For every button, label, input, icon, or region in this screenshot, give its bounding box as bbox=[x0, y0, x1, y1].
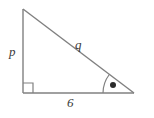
angle-arc-icon bbox=[103, 75, 109, 94]
right-triangle-figure: p q 6 bbox=[0, 0, 154, 118]
label-base-length: 6 bbox=[67, 96, 74, 109]
triangle-diagram-svg bbox=[0, 0, 154, 118]
label-hypotenuse-q: q bbox=[75, 38, 82, 51]
label-vertical-leg-p: p bbox=[9, 45, 16, 58]
right-angle-marker-icon bbox=[23, 83, 33, 93]
angle-dot-marker-icon bbox=[110, 82, 116, 88]
